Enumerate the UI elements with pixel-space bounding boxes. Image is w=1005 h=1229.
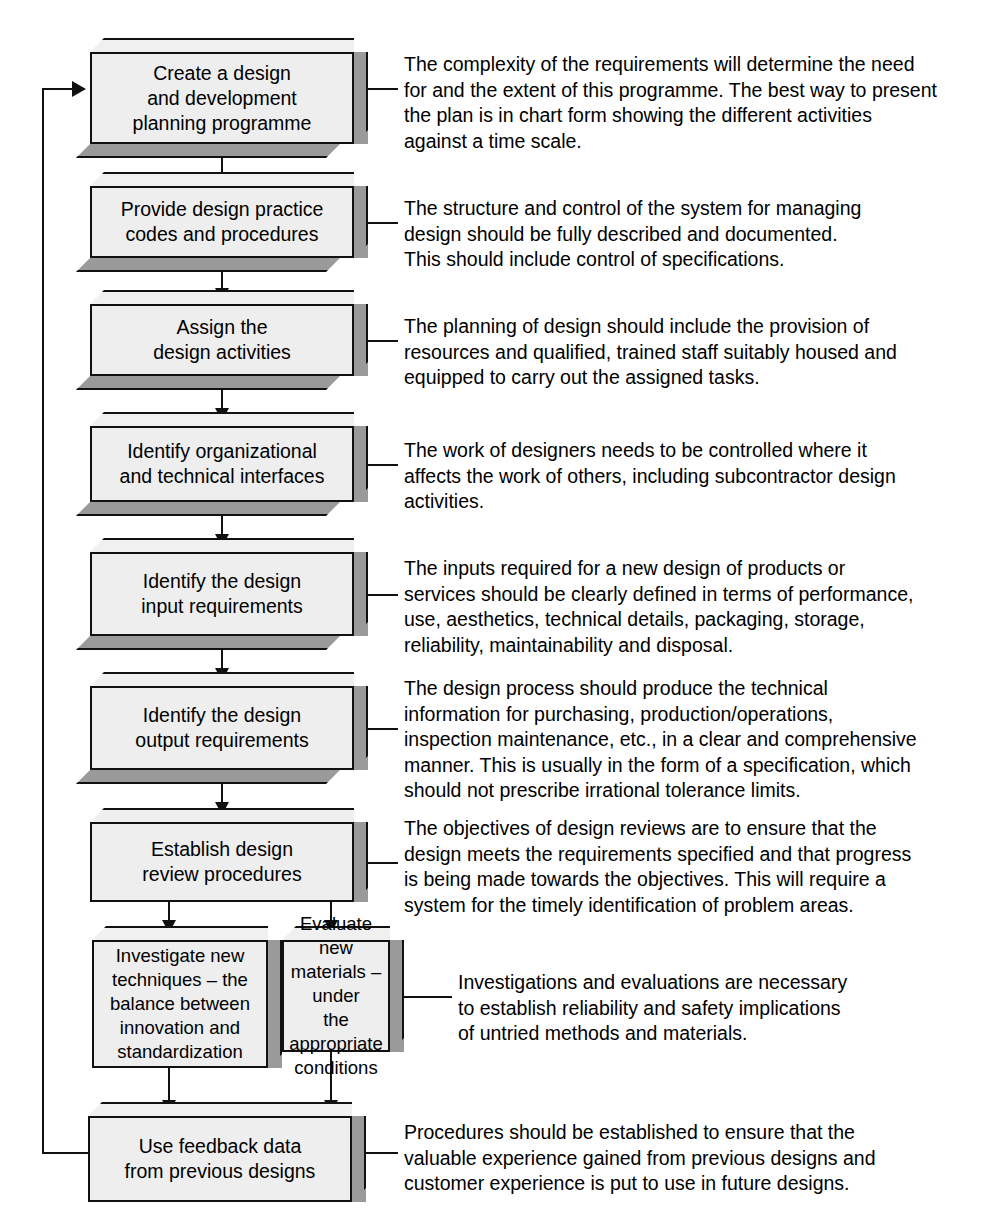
annotation-connector-1 — [368, 88, 398, 90]
process-box-provide-design-practice-codes[interactable]: Provide design practice codes and proced… — [90, 186, 354, 258]
box-front-face: Identify the design input requirements — [90, 552, 354, 636]
process-box-evaluate-new-materials[interactable]: Evaluate new materials – under the appro… — [282, 940, 390, 1052]
box-bottom-face — [76, 636, 340, 650]
annotation-text-7: The objectives of design reviews are to … — [404, 816, 1004, 918]
box-side-face — [354, 822, 368, 902]
box-side-face — [354, 552, 368, 636]
box-side-face — [354, 186, 368, 258]
box-bottom-face — [76, 502, 340, 516]
box-bottom-face — [76, 770, 340, 784]
box-bottom-face — [76, 144, 340, 158]
process-box-establish-design-review[interactable]: Establish design review procedures — [90, 822, 354, 902]
box-front-face: Create a design and development planning… — [90, 52, 354, 144]
annotation-text-2: The structure and control of the system … — [404, 196, 1004, 273]
box-side-face — [354, 686, 368, 770]
process-box-label: Identify the design input requirements — [135, 569, 309, 619]
annotation-connector-5 — [368, 594, 398, 596]
process-box-label: Establish design review procedures — [136, 837, 307, 887]
annotation-text-1: The complexity of the requirements will … — [404, 52, 1004, 154]
box-top-face — [90, 38, 354, 52]
box-front-face: Identify the design output requirements — [90, 686, 354, 770]
annotation-text-3: The planning of design should include th… — [404, 314, 1004, 391]
process-box-label: Identify the design output requirements — [129, 703, 314, 753]
annotation-text-5: The inputs required for a new design of … — [404, 556, 1004, 658]
process-box-investigate-new-techniques[interactable]: Investigate new techniques – the balance… — [92, 940, 268, 1068]
box-front-face: Establish design review procedures — [90, 822, 354, 902]
box-top-face — [90, 672, 354, 686]
box-front-face: Use feedback data from previous designs — [88, 1116, 352, 1202]
process-box-label: Investigate new techniques – the balance… — [104, 944, 256, 1064]
process-box-identify-design-output[interactable]: Identify the design output requirements — [90, 686, 354, 770]
feedback-loop-vertical-line — [42, 88, 44, 1154]
box-side-face — [354, 304, 368, 376]
feedback-loop-top-line — [42, 88, 74, 90]
feedback-loop-bottom-line — [42, 1152, 88, 1154]
box-bottom-face — [76, 258, 340, 272]
process-box-create-design-planning-programme[interactable]: Create a design and development planning… — [90, 52, 354, 144]
box-top-face — [90, 172, 354, 186]
box-front-face: Evaluate new materials – under the appro… — [282, 940, 390, 1052]
box-front-face: Investigate new techniques – the balance… — [92, 940, 268, 1068]
annotation-text-10: Procedures should be established to ensu… — [404, 1120, 1004, 1197]
box-top-face — [90, 808, 354, 822]
process-box-label: Create a design and development planning… — [127, 61, 318, 136]
annotation-connector-4 — [368, 464, 398, 466]
process-box-label: Identify organizational and technical in… — [114, 439, 331, 489]
annotation-text-6: The design process should produce the te… — [404, 676, 1004, 804]
process-box-label: Evaluate new materials – under the appro… — [283, 912, 389, 1080]
process-box-assign-design-activities[interactable]: Assign the design activities — [90, 304, 354, 376]
box-top-face — [88, 1102, 352, 1116]
annotation-connector-6 — [368, 728, 398, 730]
feedback-loop-arrowhead-icon — [72, 81, 86, 97]
box-top-face — [90, 290, 354, 304]
process-box-label: Use feedback data from previous designs — [119, 1134, 322, 1184]
box-top-face — [92, 926, 268, 940]
annotation-connector-3 — [368, 340, 398, 342]
box-front-face: Assign the design activities — [90, 304, 354, 376]
annotation-connector-7 — [368, 862, 398, 864]
process-box-label: Provide design practice codes and proced… — [115, 197, 330, 247]
annotation-connector-10 — [366, 1152, 398, 1154]
box-front-face: Provide design practice codes and proced… — [90, 186, 354, 258]
box-bottom-face — [76, 376, 340, 390]
box-side-face — [354, 426, 368, 502]
flowchart-canvas: Create a design and development planning… — [0, 0, 1005, 1229]
annotation-text-9: Investigations and evaluations are neces… — [458, 970, 1004, 1047]
process-box-label: Assign the design activities — [147, 315, 297, 365]
annotation-connector-2 — [368, 222, 398, 224]
annotation-text-4: The work of designers needs to be contro… — [404, 438, 1004, 515]
box-front-face: Identify organizational and technical in… — [90, 426, 354, 502]
box-top-face — [90, 538, 354, 552]
box-side-face — [352, 1116, 366, 1202]
annotation-connector-9 — [404, 996, 452, 998]
box-side-face — [268, 940, 282, 1068]
box-side-face — [354, 52, 368, 144]
process-box-identify-interfaces[interactable]: Identify organizational and technical in… — [90, 426, 354, 502]
box-top-face — [90, 412, 354, 426]
box-side-face — [390, 940, 404, 1052]
process-box-identify-design-input[interactable]: Identify the design input requirements — [90, 552, 354, 636]
process-box-use-feedback-data[interactable]: Use feedback data from previous designs — [88, 1116, 352, 1202]
